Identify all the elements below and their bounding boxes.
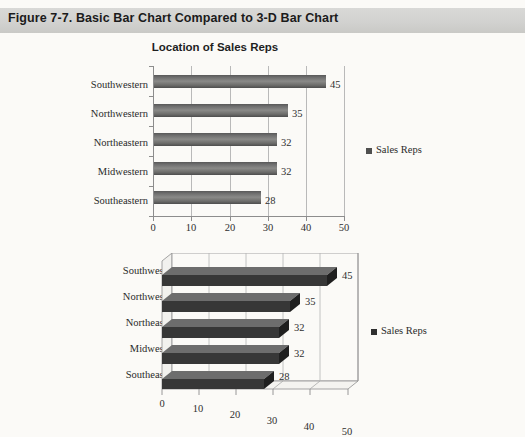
x-tick-label: 40 bbox=[294, 222, 318, 233]
category-label: Northeastern bbox=[53, 137, 148, 148]
bar-southwestern bbox=[162, 267, 337, 286]
three-d-bar-chart: Southwestern Northwestern Northeastern M… bbox=[0, 245, 525, 437]
plot-area bbox=[153, 66, 345, 217]
x-tick-label: 10 bbox=[186, 403, 210, 414]
x-tick-label: 30 bbox=[256, 222, 280, 233]
bar-midwestern bbox=[162, 345, 289, 364]
data-label: 35 bbox=[292, 108, 303, 119]
bar-southeastern bbox=[162, 371, 274, 389]
data-label: 28 bbox=[279, 371, 290, 382]
y-axis-tick bbox=[149, 66, 153, 67]
data-label: 32 bbox=[294, 322, 305, 333]
data-label: 32 bbox=[281, 166, 292, 177]
bar-northeastern bbox=[154, 133, 277, 146]
legend-marker-icon bbox=[366, 148, 372, 154]
x-tick-label: 20 bbox=[223, 409, 247, 420]
y-axis-tick bbox=[149, 126, 153, 127]
x-axis-tick bbox=[268, 217, 269, 221]
x-tick-label: 10 bbox=[179, 222, 203, 233]
bar-southeastern bbox=[154, 191, 261, 204]
legend-label: Sales Reps bbox=[376, 144, 422, 155]
data-label: 32 bbox=[294, 348, 305, 359]
data-label: 45 bbox=[342, 270, 353, 281]
bar-midwestern bbox=[154, 162, 277, 175]
category-label: Southeastern bbox=[53, 195, 148, 206]
data-label: 35 bbox=[305, 296, 316, 307]
y-axis-tick bbox=[149, 186, 153, 187]
x-tick-label: 0 bbox=[141, 222, 165, 233]
y-axis-tick bbox=[149, 96, 153, 97]
data-label: 28 bbox=[265, 195, 276, 206]
x-tick-label: 40 bbox=[297, 421, 321, 432]
data-label: 45 bbox=[330, 79, 341, 90]
category-label: Midwestern bbox=[53, 166, 148, 177]
gridline-50 bbox=[344, 66, 345, 217]
x-tick-label: 30 bbox=[260, 415, 284, 426]
x-tick-label: 20 bbox=[218, 222, 242, 233]
bar-northwestern bbox=[154, 104, 288, 117]
data-label: 32 bbox=[281, 137, 292, 148]
x-axis-tick bbox=[191, 217, 192, 221]
x-tick-label: 0 bbox=[150, 398, 174, 409]
x-tick-label: 50 bbox=[332, 222, 356, 233]
basic-bar-chart: Southwestern Northwestern Northeastern M… bbox=[0, 0, 525, 245]
category-label: Southwestern bbox=[53, 79, 148, 90]
bar-northeastern bbox=[162, 319, 289, 338]
three-d-bars bbox=[150, 253, 370, 403]
category-label: Northwestern bbox=[53, 108, 148, 119]
bar-southwestern bbox=[154, 75, 326, 88]
figure-page: Figure 7-7. Basic Bar Chart Compared to … bbox=[0, 0, 525, 437]
gridline-40 bbox=[306, 66, 307, 217]
legend-marker-icon bbox=[371, 329, 377, 335]
y-axis-tick bbox=[149, 156, 153, 157]
legend-label: Sales Reps bbox=[381, 325, 427, 336]
x-axis-tick bbox=[230, 217, 231, 221]
x-axis-tick bbox=[153, 217, 154, 221]
bar-northwestern bbox=[162, 293, 300, 312]
x-axis-tick bbox=[306, 217, 307, 221]
x-axis-tick bbox=[344, 217, 345, 221]
x-axis-line bbox=[153, 216, 345, 217]
x-tick-label: 50 bbox=[335, 426, 359, 437]
